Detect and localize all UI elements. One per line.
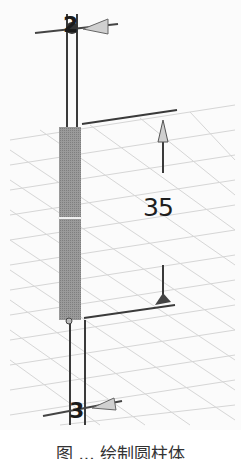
dimension-arrow-down-icon	[155, 293, 171, 305]
node-label-top: 2	[63, 12, 78, 37]
figure-caption: 图 ... 绘制圆柱体	[0, 440, 241, 459]
scene-graphics	[0, 0, 241, 430]
3d-viewport[interactable]: 35 2 3	[0, 0, 241, 430]
node-label-bottom: 3	[69, 398, 84, 423]
cone-arrow-icon	[92, 398, 116, 410]
dimension-value[interactable]: 35	[143, 193, 173, 222]
cylinder[interactable]	[58, 127, 82, 320]
pivot-point	[66, 318, 72, 324]
ground-grid	[10, 105, 235, 425]
dimension-arrow-up-icon	[158, 120, 168, 142]
